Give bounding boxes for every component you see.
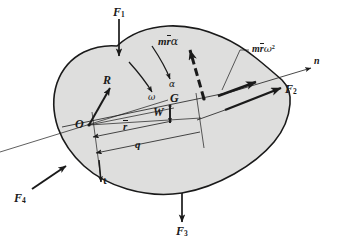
n-axis-label: n xyxy=(314,56,320,66)
reaction-label: R xyxy=(103,74,111,86)
force-4-label: F4 xyxy=(14,192,26,205)
force-1-label: F1 xyxy=(113,6,125,19)
inertia-tangential-label: mrα xyxy=(158,36,178,47)
alpha-label: α xyxy=(169,80,175,89)
force-3-label: F3 xyxy=(176,225,188,238)
pivot-point-marker xyxy=(87,123,90,126)
free-body-diagram-figure: F1 F2 F3 F4 R O G W r q ω α n t mrα mrω2 xyxy=(0,0,339,244)
force-2-label: F2 xyxy=(285,83,297,96)
inertia-normal-label: mrω2 xyxy=(252,44,275,54)
weight-label: W xyxy=(153,106,164,118)
r-bar-dimension-label: r xyxy=(123,121,127,132)
q-dimension-label: q xyxy=(135,139,141,150)
pivot-label: O xyxy=(75,118,84,130)
center-of-gravity-label: G xyxy=(170,92,179,104)
omega-label: ω xyxy=(148,93,155,102)
t-axis-label: t xyxy=(103,175,107,186)
force-4-arrow xyxy=(32,166,66,189)
